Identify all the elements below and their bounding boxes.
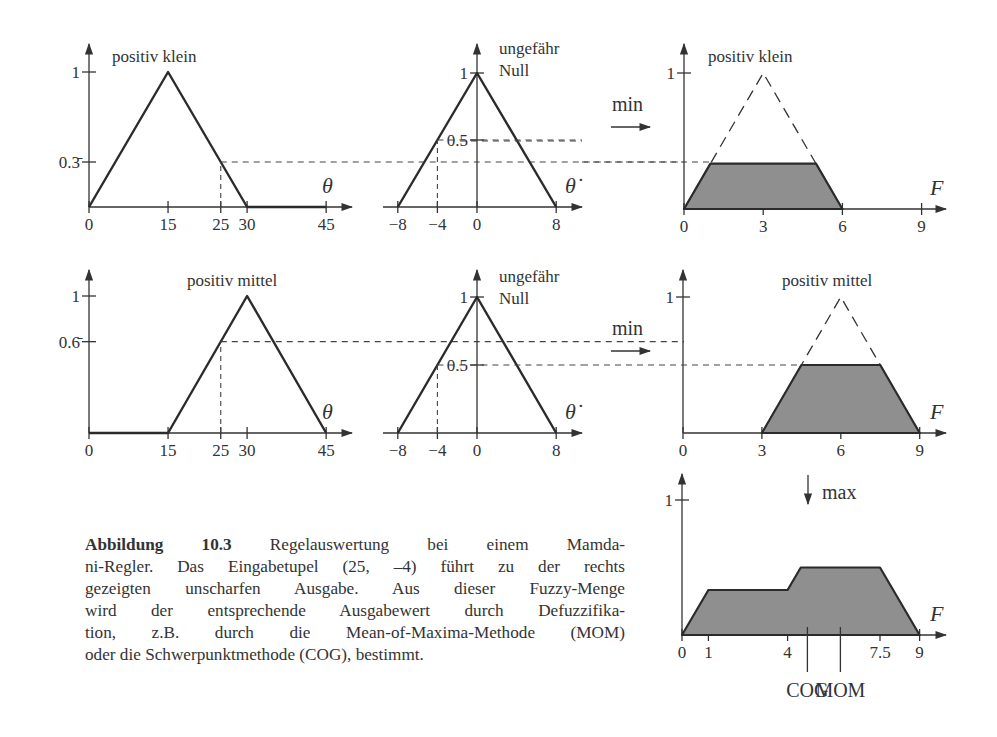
x-tick-label: 7.5 [869,643,890,662]
filled-membership-area [684,164,842,209]
x-tick-label: 8 [552,215,561,234]
y-tick-label: 1 [667,64,676,83]
y-tick-label: 1 [460,64,469,83]
chart-panel-row2-thetadot: −8−4080.51ungefährNullθ̇ [383,267,583,460]
set-label-line2: Null [499,61,530,80]
caption-line-3: gezeigten unscharfen Ausgabe. Aus dieser… [85,578,625,600]
axis-variable-label: F [929,399,944,424]
chart-panel-row1-thetadot: −8−4080.51ungefährNullθ̇ [383,39,583,234]
y-tick-label: 1 [72,63,81,82]
set-label: ungefähr [499,39,560,58]
x-tick-label: 0 [680,217,689,236]
x-tick-label: 8 [552,441,561,460]
y-tick-label: 0.6̄ [59,333,83,352]
axis-variable-label: θ̇ [565,399,583,424]
membership-function [89,72,326,207]
x-tick-label: 45 [318,441,335,460]
y-tick-label: 1 [72,287,81,306]
x-tick-label: 1 [704,643,713,662]
caption-label: Abbildung 10.3 [85,535,232,554]
x-tick-label: 0 [473,441,482,460]
x-tick-label: 15 [160,215,177,234]
marker-label-mom: MOM [815,679,865,701]
chart-panel-aggregate-output: 0147.591FCOGMOM [665,474,947,701]
caption-line-4: wird der entsprechende Ausgabewert durch… [85,600,625,622]
x-tick-label: 25 [212,441,229,460]
chart-panel-row1-theta: 0152530450.3̄1positiv kleinθ [59,44,684,234]
caption-line-5: tion, z.B. durch die Mean-of-Maxima-Meth… [85,622,625,644]
set-label-line2: Null [499,289,530,308]
min-operator-label: min [612,317,643,339]
x-tick-label: 6 [838,217,847,236]
x-tick-label: 9 [917,217,926,236]
y-tick-label: 1 [460,288,469,307]
chart-panel-row2-theta: 0152530450.6̄1positiv mittelθ [59,270,684,460]
filled-membership-area [682,568,920,636]
set-label: positiv mittel [782,271,872,290]
axis-variable-label: θ [322,399,333,424]
membership-function [89,296,326,433]
x-tick-label: 30 [239,215,256,234]
x-tick-label: 9 [915,643,924,662]
max-operator-label: max [822,481,856,503]
caption-line-2: ni-Regler. Das Eingabetupel (25, –4) füh… [85,556,625,578]
axis-variable-label: F [929,601,944,626]
y-tick-label: 1 [665,491,674,510]
filled-membership-area [762,365,920,433]
set-label: positiv klein [708,47,793,66]
x-tick-label: 0 [679,441,688,460]
axis-variable-label: F [929,175,944,200]
axis-variable-label: θ [322,173,333,198]
x-tick-label: 25 [212,215,229,234]
axis-variable-label: θ̇ [565,173,583,198]
min-operator-label: min [612,93,643,115]
set-label: positiv mittel [187,271,277,290]
x-tick-label: 9 [915,441,924,460]
x-tick-label: 0 [85,215,94,234]
x-tick-label: 0 [85,441,94,460]
x-tick-label: 3 [758,441,767,460]
chart-panel-row1-output: 03691positiv kleinF [667,44,947,236]
caption-line-6: oder die Schwerpunktmethode (COG), besti… [85,644,625,666]
x-tick-label: −8 [389,441,407,460]
x-tick-label: 30 [239,441,256,460]
y-tick-label: 0.3̄ [59,153,83,172]
x-tick-label: 3 [759,217,768,236]
x-tick-label: −4 [428,215,447,234]
x-tick-label: 0 [473,215,482,234]
x-tick-label: 4 [783,643,792,662]
set-label: positiv klein [112,47,197,66]
x-tick-label: 6 [837,441,846,460]
caption-line-1: Abbildung 10.3 Regelauswertung bei einem… [85,534,625,556]
x-tick-label: −8 [389,215,407,234]
x-tick-label: 45 [318,215,335,234]
set-label: ungefähr [499,267,560,286]
figure-caption: Abbildung 10.3 Regelauswertung bei einem… [85,534,625,666]
x-tick-label: 0 [678,643,687,662]
x-tick-label: −4 [428,441,447,460]
x-tick-label: 15 [160,441,177,460]
y-tick-label: 1 [666,288,675,307]
